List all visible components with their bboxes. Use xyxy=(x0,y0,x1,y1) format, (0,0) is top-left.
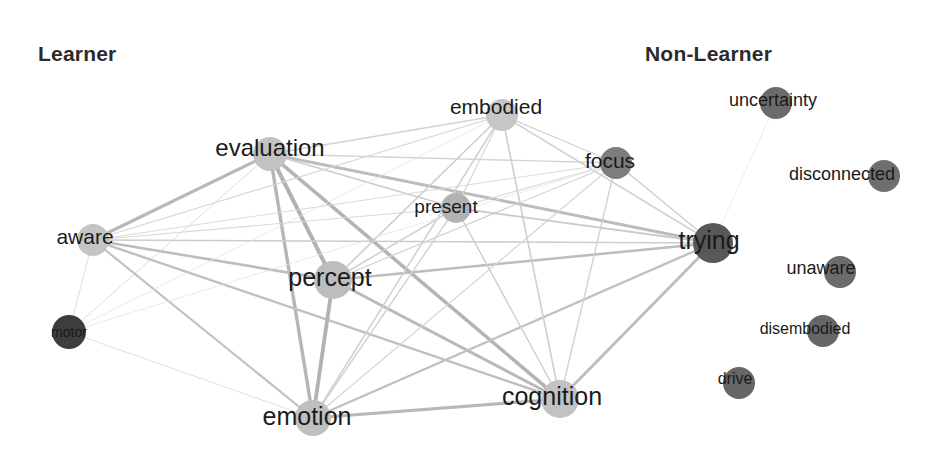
graph-node-label-trying: trying xyxy=(678,228,739,253)
graph-node-label-drive: drive xyxy=(718,371,753,387)
edge-layer xyxy=(0,0,936,454)
graph-edge xyxy=(93,240,713,243)
graph-node-label-unaware: unaware xyxy=(786,259,855,277)
group-title-non-learner: Non-Learner xyxy=(645,42,772,66)
graph-edge xyxy=(502,115,713,243)
graph-node-label-evaluation: evaluation xyxy=(215,136,324,160)
graph-node-label-disembodied: disembodied xyxy=(760,321,851,337)
graph-node-label-aware: aware xyxy=(56,226,113,247)
graph-node-label-motor: motor xyxy=(51,325,87,339)
network-graph-figure: evaluationembodiedpresentfocusawareperce… xyxy=(0,0,936,454)
graph-edge xyxy=(333,243,713,280)
graph-node-label-percept: percept xyxy=(288,265,371,290)
graph-edge xyxy=(313,280,333,418)
graph-node-label-embodied: embodied xyxy=(450,96,542,117)
graph-edge xyxy=(560,243,713,399)
graph-edge xyxy=(560,163,616,399)
graph-node-label-emotion: emotion xyxy=(263,404,352,429)
graph-node-label-cognition: cognition xyxy=(502,384,602,409)
graph-edge xyxy=(456,208,713,243)
graph-node-label-disconnected: disconnected xyxy=(789,165,895,183)
graph-edge xyxy=(69,163,616,332)
graph-node-label-focus: focus xyxy=(585,150,635,171)
group-title-learner: Learner xyxy=(38,42,116,66)
graph-node-label-uncertainty: uncertainty xyxy=(729,91,817,109)
graph-node-label-present: present xyxy=(414,197,477,216)
graph-edge xyxy=(713,103,776,243)
graph-edge xyxy=(333,163,616,280)
